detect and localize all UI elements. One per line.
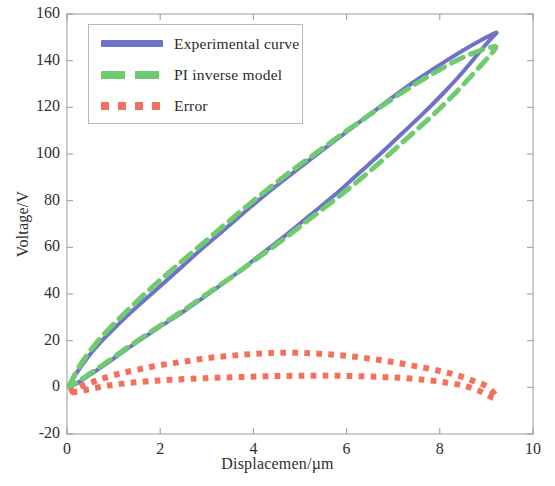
series-line-error [69,353,496,398]
solid-line-swatch-icon [101,35,163,53]
legend-item-experimental-curve: Experimental curve [89,29,302,59]
legend-item-error: Error [89,91,302,121]
y-tick-label: 40 [8,284,60,302]
legend-label-error: Error [174,97,208,115]
dashed-line-swatch-icon [101,66,163,84]
legend-label-experimental-curve: Experimental curve [174,35,299,53]
y-tick-label: 20 [8,331,60,349]
legend-label-pi-inverse-model: PI inverse model [174,66,282,84]
y-tick-label: 120 [8,97,60,115]
chart-legend: Experimental curve PI inverse model Erro… [88,24,303,124]
y-axis-label: Voltage/V [14,164,32,284]
dotted-line-swatch-icon [101,97,163,115]
hysteresis-chart-figure: -20020406080100120140160 0246810 Voltage… [0,0,555,486]
legend-item-pi-inverse-model: PI inverse model [89,60,302,90]
x-axis-label: Displacemen/µm [0,455,555,473]
y-tick-label: 160 [8,4,60,22]
y-tick-label: 100 [8,144,60,162]
y-tick-label: 140 [8,51,60,69]
y-tick-label: 0 [8,377,60,395]
